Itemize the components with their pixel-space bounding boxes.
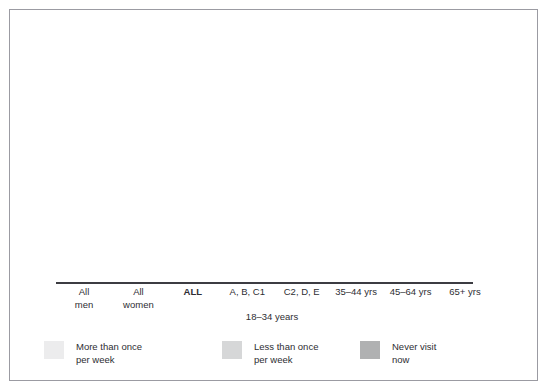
x-axis-label-line1: C2, D, E [280,286,324,299]
legend-label-line1: More than once [76,341,142,354]
legend-label-line2: per week [254,354,318,367]
bar-group [62,32,487,283]
bar-slot [171,32,215,283]
legend-label-line1: Less than once [254,341,318,354]
x-axis-label-line2: men [62,299,106,312]
bar-slot [334,32,378,283]
x-axis-label: ALL [171,286,215,326]
bar-slot [443,32,487,283]
legend-color-swatch [360,341,380,359]
x-axis-label: 65+ yrs [443,286,487,326]
chart-frame: AllmenAllwomenALLA, B, C1C2, D, E35–44 y… [9,9,538,381]
x-axis-label: 45–64 yrs [389,286,433,326]
legend-item[interactable]: Never visitnow [360,341,490,366]
legend-label-line2: now [392,354,436,367]
chart-page: AllmenAllwomenALLA, B, C1C2, D, E35–44 y… [0,0,549,392]
legend-label: More than onceper week [76,341,142,366]
bar-slot [62,32,106,283]
x-axis-label-line1: 35–44 yrs [334,286,378,299]
legend-color-swatch [222,341,242,359]
x-axis-label-line1: A, B, C1 [225,286,269,299]
legend-item[interactable]: Less than onceper week [222,341,360,366]
bar-slot [116,32,160,283]
x-axis-line [56,282,473,284]
legend-color-swatch [44,341,64,359]
x-axis-label-line1: 65+ yrs [443,286,487,299]
x-axis-label-line1: 45–64 yrs [389,286,433,299]
bar-slot [389,32,433,283]
bar-slot [280,32,324,283]
chart-legend: More than onceper weekLess than onceper … [44,341,504,366]
x-axis-label-line1: All [116,286,160,299]
legend-label: Less than onceper week [254,341,318,366]
x-axis-label-line2: women [116,299,160,312]
plot-area [62,32,487,283]
x-axis-label: 35–44 yrs [334,286,378,326]
group-label-text: 18–34 years [212,311,332,322]
x-axis-label-line1: ALL [171,286,215,299]
legend-item[interactable]: More than onceper week [44,341,222,366]
x-axis-label: Allmen [62,286,106,326]
x-axis-label-line1: All [62,286,106,299]
legend-label: Never visitnow [392,341,436,366]
bar-slot [225,32,269,283]
legend-label-line1: Never visit [392,341,436,354]
legend-label-line2: per week [76,354,142,367]
x-axis-label: Allwomen [116,286,160,326]
